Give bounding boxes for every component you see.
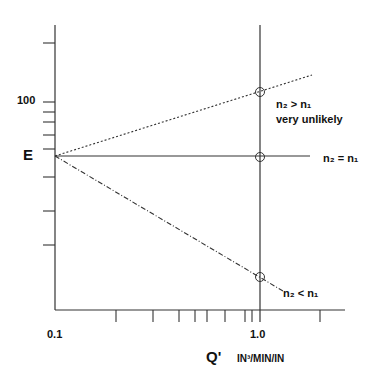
diagram-canvas	[0, 0, 372, 382]
line-n2-less-n1	[55, 156, 283, 291]
annotation-n2-equal-n1: n₂ = n₁	[323, 151, 358, 166]
y-axis-label: E	[23, 146, 33, 163]
annotation-n2-greater-n1-main: n₂ > n₁	[276, 97, 343, 112]
annotation-n2-greater-n1-sub: very unlikely	[276, 112, 343, 127]
x-tick-label-1-0: 1.0	[250, 328, 265, 340]
annotation-n2-greater-n1: n₂ > n₁ very unlikely	[276, 97, 343, 127]
x-tick-label-0-1: 0.1	[47, 328, 62, 340]
x-axis-label: Q'	[206, 348, 221, 365]
x-axis-units: IN³/MIN/IN	[237, 353, 284, 364]
x-axis-ticks	[116, 310, 320, 322]
line-n2-greater-n1	[55, 75, 312, 156]
y-tick-label-100: 100	[17, 94, 35, 106]
annotation-n2-less-n1: n₂ < n₁	[283, 286, 318, 301]
y-axis-ticks	[43, 43, 55, 245]
